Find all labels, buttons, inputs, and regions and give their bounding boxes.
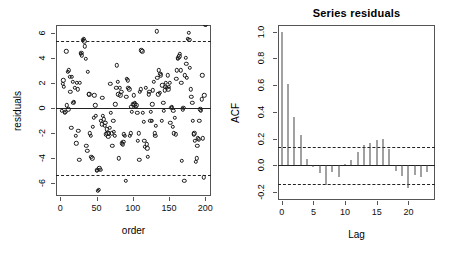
scatter-point	[111, 118, 115, 122]
scatter-point	[186, 30, 190, 34]
acf-bar	[421, 165, 422, 177]
acf-x-tick	[408, 201, 409, 205]
scatter-y-tick	[51, 108, 55, 109]
scatter-y-tick-label: 0	[38, 105, 47, 110]
acf-bar	[326, 165, 327, 185]
scatter-point	[152, 79, 156, 83]
scatter-point	[77, 157, 81, 161]
scatter-point	[192, 131, 196, 135]
scatter-point	[91, 125, 95, 129]
acf-panel: Series residuals 05101520 -0.20.00.20.40…	[225, 0, 449, 256]
acf-y-tick	[273, 139, 277, 140]
acf-bar	[294, 117, 295, 165]
scatter-point	[97, 188, 101, 192]
acf-x-axis-title: Lag	[348, 230, 365, 240]
acf-bar	[427, 165, 428, 172]
scatter-point	[162, 108, 166, 112]
scatter-point	[119, 89, 123, 93]
scatter-point	[69, 126, 73, 130]
scatter-point	[62, 84, 66, 88]
acf-lower-confidence-bound	[278, 184, 435, 185]
acf-y-tick-label: 0.6	[257, 79, 266, 92]
scatter-point	[173, 116, 177, 120]
acf-x-tick	[377, 201, 378, 205]
acf-bar	[338, 165, 339, 177]
acf-y-tick	[273, 85, 277, 86]
scatter-point	[204, 25, 208, 27]
acf-y-tick	[273, 165, 277, 166]
scatter-point	[181, 106, 185, 110]
scatter-point	[118, 93, 122, 97]
residuals-scatter-panel: 050100150200 -6-4-20246 order residuals	[0, 0, 225, 256]
acf-y-tick	[273, 192, 277, 193]
acf-zero-line	[278, 165, 435, 166]
scatter-y-axis-title: residuals	[13, 90, 23, 130]
scatter-point	[126, 78, 130, 82]
acf-bar	[307, 159, 308, 166]
scatter-point	[106, 135, 110, 139]
acf-bar	[345, 164, 346, 165]
scatter-y-tick-label: -6	[38, 179, 47, 187]
scatter-point	[191, 118, 195, 122]
acf-plot-content	[278, 25, 435, 200]
scatter-point	[76, 87, 80, 91]
scatter-point	[85, 149, 89, 153]
scatter-y-tick	[51, 83, 55, 84]
acf-x-tick	[345, 201, 346, 205]
scatter-point	[103, 121, 107, 125]
scatter-point	[201, 136, 205, 140]
scatter-point	[188, 66, 192, 70]
scatter-x-tick-label: 150	[161, 204, 176, 213]
acf-bar	[313, 165, 314, 166]
acf-y-tick-label: 1.0	[257, 25, 266, 38]
scatter-point	[115, 63, 119, 67]
acf-plot-title: Series residuals	[313, 7, 401, 19]
scatter-point	[145, 146, 149, 150]
scatter-point	[199, 97, 203, 101]
scatter-point	[189, 94, 193, 98]
scatter-point	[89, 133, 93, 137]
scatter-point	[154, 123, 158, 127]
scatter-point	[194, 156, 198, 160]
scatter-point	[115, 79, 119, 83]
scatter-point	[153, 133, 157, 137]
scatter-x-tick	[60, 197, 61, 201]
scatter-point	[131, 93, 135, 97]
scatter-point	[149, 110, 153, 114]
figure-root: 050100150200 -6-4-20246 order residuals …	[0, 0, 449, 256]
acf-bar	[408, 165, 409, 188]
scatter-point	[140, 49, 144, 53]
acf-bar	[395, 165, 396, 170]
scatter-point	[170, 125, 174, 129]
scatter-y-tick-label: -4	[38, 154, 47, 162]
scatter-point	[94, 113, 98, 117]
scatter-point	[179, 81, 183, 85]
scatter-point	[112, 133, 116, 137]
scatter-point	[195, 144, 199, 148]
acf-bar	[281, 32, 282, 166]
scatter-point	[109, 111, 113, 115]
scatter-lower-limit	[56, 175, 211, 176]
scatter-point	[202, 93, 206, 97]
scatter-x-axis-title: order	[122, 226, 145, 236]
acf-bar	[332, 165, 333, 172]
scatter-point	[72, 99, 76, 103]
scatter-point	[190, 101, 194, 105]
scatter-point	[137, 157, 141, 161]
acf-bar	[370, 143, 371, 166]
scatter-y-tick-label: 4	[38, 55, 47, 60]
scatter-x-tick-label: 50	[92, 204, 102, 213]
scatter-y-tick-label: 6	[38, 30, 47, 35]
scatter-point	[171, 108, 175, 112]
scatter-point	[165, 73, 169, 77]
scatter-point	[189, 87, 193, 91]
acf-y-tick-label: 0.0	[257, 159, 266, 172]
scatter-point	[160, 118, 164, 122]
acf-bar	[319, 165, 320, 173]
scatter-point	[182, 179, 186, 183]
scatter-point	[113, 102, 117, 106]
scatter-point	[83, 44, 87, 48]
scatter-point	[92, 93, 96, 97]
scatter-point	[64, 49, 68, 53]
scatter-point	[141, 120, 145, 124]
